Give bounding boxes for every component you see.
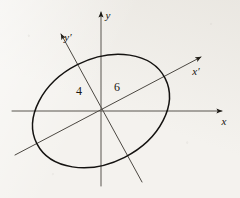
figure-canvas: x y x′ y′ 4 6 xyxy=(0,0,240,198)
y-axis-label: y xyxy=(105,9,111,21)
y-prime-axis-label: y′ xyxy=(63,31,72,43)
x-prime-axis-label: x′ xyxy=(191,65,200,77)
coordinate-diagram: x y x′ y′ 4 6 xyxy=(0,0,240,198)
semi-major-length-label: 6 xyxy=(114,80,120,94)
semi-minor-length-label: 4 xyxy=(76,84,82,98)
x-prime-axis xyxy=(15,57,201,155)
x-axis-label: x xyxy=(221,115,227,127)
